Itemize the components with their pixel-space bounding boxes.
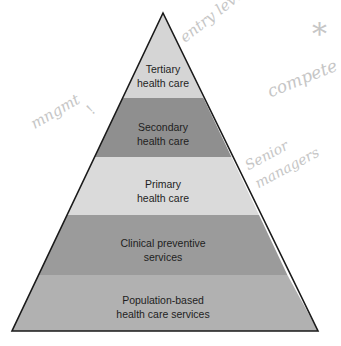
label-clinical-preventive: Clinical preventive services (63, 236, 263, 264)
label-population-based-line1: Population-based (63, 293, 263, 307)
label-secondary: Secondary health care (63, 120, 263, 148)
label-population-based: Population-based health care services (63, 293, 263, 321)
label-population-based-line2: health care services (63, 307, 263, 321)
annotation-star-icon: * (312, 16, 327, 51)
label-secondary-line1: Secondary (63, 120, 263, 134)
label-primary-line1: Primary (63, 177, 263, 191)
label-tertiary-line2: health care (63, 76, 263, 90)
label-primary-line2: health care (63, 191, 263, 205)
label-clinical-preventive-line2: services (63, 250, 263, 264)
label-tertiary-line1: Tertiary (63, 62, 263, 76)
label-clinical-preventive-line1: Clinical preventive (63, 236, 263, 250)
label-secondary-line2: health care (63, 134, 263, 148)
label-tertiary: Tertiary health care (63, 62, 263, 90)
label-primary: Primary health care (63, 177, 263, 205)
